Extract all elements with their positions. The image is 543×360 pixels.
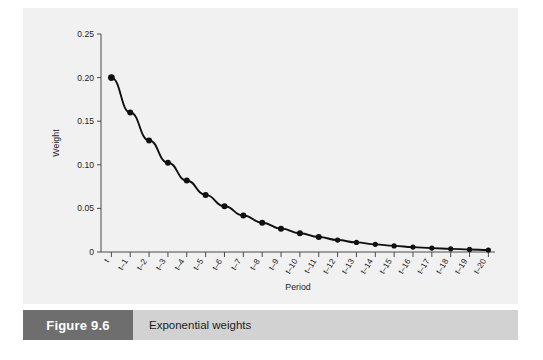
x-tick-label: t–5 bbox=[192, 257, 206, 272]
chart-panel: 00.050.100.150.200.25 Weight tt–1t–2t–3t… bbox=[23, 8, 518, 304]
x-tick-label: t–3 bbox=[154, 257, 168, 272]
x-tick-label: t–7 bbox=[229, 257, 243, 272]
x-axis-title: Period bbox=[285, 282, 311, 292]
y-tick-label: 0 bbox=[89, 247, 94, 257]
data-point bbox=[165, 160, 171, 166]
data-point bbox=[448, 246, 453, 251]
data-point bbox=[108, 74, 115, 81]
x-tick-label: t–13 bbox=[340, 257, 356, 276]
x-axis-ticks bbox=[111, 252, 488, 257]
figure-number-box: Figure 9.6 bbox=[23, 310, 133, 340]
data-point bbox=[221, 203, 227, 209]
figure-caption-label: Exponential weights bbox=[149, 310, 251, 340]
x-tick-label: t–2 bbox=[135, 257, 149, 272]
data-point bbox=[467, 247, 472, 252]
x-tick-label: t–10 bbox=[284, 257, 300, 276]
x-tick-label: t–19 bbox=[453, 257, 469, 276]
y-tick-label: 0.25 bbox=[77, 29, 94, 39]
x-tick-label: t–16 bbox=[397, 257, 413, 276]
data-point bbox=[278, 226, 284, 232]
y-axis-tick-labels: 00.050.100.150.200.25 bbox=[77, 29, 94, 257]
data-point bbox=[240, 212, 246, 218]
data-point bbox=[354, 240, 359, 245]
exponential-weights-chart: 00.050.100.150.200.25 Weight tt–1t–2t–3t… bbox=[23, 8, 518, 304]
data-point bbox=[259, 220, 265, 226]
data-point bbox=[373, 242, 378, 247]
data-point bbox=[486, 247, 491, 252]
x-axis: tt–1t–2t–3t–4t–5t–6t–7t–8t–9t–10t–11t–12… bbox=[101, 252, 495, 292]
data-point bbox=[316, 234, 322, 240]
x-tick-label: t–9 bbox=[267, 257, 281, 272]
data-point bbox=[184, 178, 190, 184]
x-tick-label: t–8 bbox=[248, 257, 262, 272]
x-tick-label: t–18 bbox=[434, 257, 450, 276]
y-tick-label: 0.20 bbox=[77, 73, 94, 83]
y-axis-ticks bbox=[97, 34, 101, 252]
data-point bbox=[297, 230, 303, 236]
x-tick-label: t–17 bbox=[415, 257, 431, 276]
x-tick-label: t–1 bbox=[116, 257, 130, 272]
x-tick-label: t–14 bbox=[359, 257, 375, 276]
data-point bbox=[410, 245, 415, 250]
x-tick-label: t–12 bbox=[321, 257, 337, 276]
x-tick-label: t–15 bbox=[378, 257, 394, 276]
y-tick-label: 0.15 bbox=[77, 116, 94, 126]
x-tick-label: t bbox=[102, 257, 111, 264]
data-point bbox=[203, 192, 209, 198]
figure-caption-bar: Figure 9.6 Exponential weights bbox=[23, 310, 518, 340]
x-tick-label: t–4 bbox=[173, 257, 187, 272]
figure-page: 00.050.100.150.200.25 Weight tt–1t–2t–3t… bbox=[0, 0, 543, 360]
x-tick-label: t–6 bbox=[211, 257, 225, 272]
x-tick-label: t–20 bbox=[472, 257, 488, 276]
data-point bbox=[127, 109, 133, 115]
x-tick-label: t–11 bbox=[303, 257, 319, 275]
y-axis: 00.050.100.150.200.25 Weight bbox=[51, 29, 101, 257]
data-point bbox=[146, 137, 152, 143]
data-point bbox=[335, 237, 340, 242]
data-point bbox=[429, 245, 434, 250]
y-tick-label: 0.05 bbox=[77, 203, 94, 213]
data-point bbox=[392, 243, 397, 248]
x-axis-tick-labels: tt–1t–2t–3t–4t–5t–6t–7t–8t–9t–10t–11t–12… bbox=[102, 257, 488, 276]
weights-data-points bbox=[108, 74, 491, 252]
y-axis-title: Weight bbox=[51, 129, 61, 157]
figure-number-label: Figure 9.6 bbox=[46, 318, 109, 333]
y-tick-label: 0.10 bbox=[77, 160, 94, 170]
